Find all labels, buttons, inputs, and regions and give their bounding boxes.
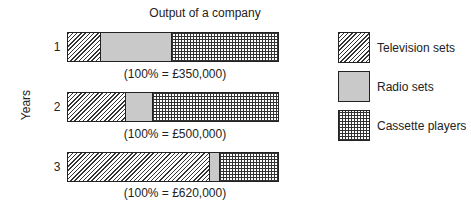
bar-caption-1: (100% = £350,000) [110,67,240,81]
segment-cassette-players [152,93,278,121]
legend-label: Radio sets [377,80,434,94]
segment-radio-sets [209,153,220,181]
bar-caption-2: (100% = £500,000) [110,127,240,141]
segment-television-sets [68,153,209,181]
segment-radio-sets [125,93,152,121]
segment-radio-sets [100,33,171,61]
stacked-bar-2 [67,92,279,122]
dotted-swatch-icon [338,71,370,102]
legend-label: Television sets [377,41,455,55]
stacked-bar-3 [67,152,279,182]
diagonal-hatch-swatch-icon [338,32,370,63]
cross-hatch-swatch-icon [338,110,370,141]
segment-television-sets [68,33,100,61]
legend-label: Cassette players [377,119,466,133]
chart-title: Output of a company [130,6,280,20]
row-label-2: 2 [52,100,62,114]
segment-cassette-players [171,33,278,61]
segment-television-sets [68,93,125,121]
stacked-bar-1 [67,32,279,62]
row-label-1: 1 [52,40,62,54]
legend-item-television-sets: Television sets [338,32,455,63]
bar-caption-3: (100% = £620,000) [110,186,240,200]
row-label-3: 3 [52,160,62,174]
y-axis-label: Years [19,85,33,125]
segment-cassette-players [219,153,278,181]
legend-item-radio-sets: Radio sets [338,71,434,102]
legend-item-cassette-players: Cassette players [338,110,466,141]
